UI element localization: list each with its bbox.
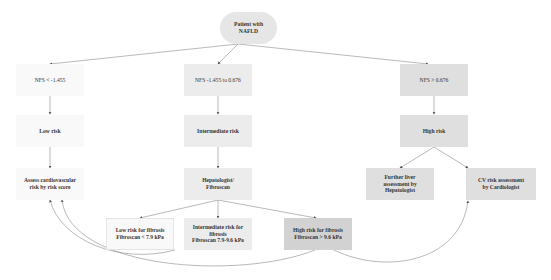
node-assess-cv-risk: Assess cardiovascular risk by risk score — [16, 168, 84, 200]
node-text: by Cardiologist — [478, 184, 524, 191]
node-text: High risk for fibrosis — [293, 227, 343, 234]
node-further-liver-assessment: Further liver assessment by Hepatologist — [366, 168, 434, 200]
edge-root-nfs-mid — [218, 44, 238, 64]
node-text: Patient with — [234, 21, 263, 28]
edge-hep-fib-low — [140, 200, 218, 218]
node-nfs-low: NFS < -1.455 — [16, 64, 84, 96]
node-text: Intermediate risk for — [192, 224, 244, 231]
node-text: NAFLD — [234, 28, 263, 35]
edge-high-liver — [400, 147, 434, 168]
edge-hep-fib-high — [218, 200, 316, 218]
node-text: Intermediate risk — [197, 128, 239, 135]
node-text: High risk — [423, 128, 446, 135]
node-high-risk: High risk — [400, 115, 468, 147]
node-text: CV risk assessment — [478, 177, 524, 184]
node-nfs-high: NFS > 0.676 — [400, 64, 468, 96]
node-text: Hepatologist/ — [202, 177, 234, 184]
node-hepatologist-fibroscan: Hepatologist/ Fibroscan — [184, 168, 252, 200]
node-text: Fibroscan 7.9-9.6 kPa — [192, 237, 244, 244]
node-text: NFS < -1.455 — [35, 77, 66, 84]
node-patient-nafld: Patient with NAFLD — [220, 12, 277, 44]
node-text: risk by risk score — [24, 184, 76, 191]
edge-high-cv — [434, 147, 468, 168]
node-text: Low risk — [39, 128, 60, 135]
node-text: Hepatologist — [383, 187, 416, 194]
flowchart: Patient with NAFLD NFS < -1.455 NFS -1.4… — [0, 0, 551, 280]
node-text: Fibroscan > 9.6 kPa — [293, 234, 343, 241]
node-text: NFS > 0.676 — [420, 77, 449, 84]
node-nfs-mid: NFS -1.455 to 0.676 — [184, 64, 252, 96]
node-fibrosis-high: High risk for fibrosis Fibroscan > 9.6 k… — [284, 218, 352, 250]
node-fibrosis-low: Low risk for fibrosis Fibroscan < 7.9 kP… — [106, 218, 174, 250]
node-text: Further liver — [383, 174, 416, 181]
node-text: assessment by — [383, 181, 416, 188]
node-cv-risk-cardiologist: CV risk assessment by Cardiologist — [466, 168, 536, 200]
edge-root-nfs-low — [50, 44, 238, 64]
node-text: Assess cardiovascular — [24, 177, 76, 184]
node-text: Low risk for fibrosis — [116, 227, 165, 234]
node-text: Fibroscan < 7.9 kPa — [116, 234, 165, 241]
edge-root-nfs-high — [238, 44, 428, 64]
node-low-risk: Low risk — [16, 115, 84, 147]
node-intermediate-risk: Intermediate risk — [184, 115, 252, 147]
node-fibrosis-intermediate: Intermediate risk for fibrosis Fibroscan… — [184, 218, 252, 250]
node-text: Fibroscan — [202, 184, 234, 191]
node-text: NFS -1.455 to 0.676 — [195, 77, 241, 84]
node-text: fibrosis — [192, 231, 244, 238]
